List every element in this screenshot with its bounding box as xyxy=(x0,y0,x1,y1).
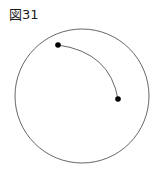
end-point-dot xyxy=(115,96,121,102)
outer-circle-shape xyxy=(15,29,149,163)
figure-drawing xyxy=(0,0,157,181)
connecting-arc-shape xyxy=(58,45,118,99)
figure-panel: 図31 xyxy=(0,0,157,181)
start-point-dot xyxy=(55,42,61,48)
